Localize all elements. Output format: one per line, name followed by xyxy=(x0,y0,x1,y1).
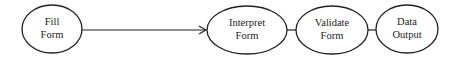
node-label-line1: Data xyxy=(397,16,417,27)
node-label-line1: Validate xyxy=(315,17,350,28)
flow-diagram: Fill Form Interpret Form Validate Form D… xyxy=(0,0,460,59)
node-data-output: Data Output xyxy=(376,5,438,53)
node-label-line2: Form xyxy=(41,29,64,40)
node-fill-form: Fill Form xyxy=(22,5,82,53)
node-validate-form: Validate Form xyxy=(296,6,368,54)
node-label-line1: Interpret xyxy=(229,17,265,28)
node-label-line2: Form xyxy=(236,30,259,41)
node-label-line2: Output xyxy=(392,29,421,40)
node-label-line2: Form xyxy=(321,30,344,41)
node-interpret-form: Interpret Form xyxy=(207,6,287,54)
node-label-line1: Fill xyxy=(45,16,60,27)
